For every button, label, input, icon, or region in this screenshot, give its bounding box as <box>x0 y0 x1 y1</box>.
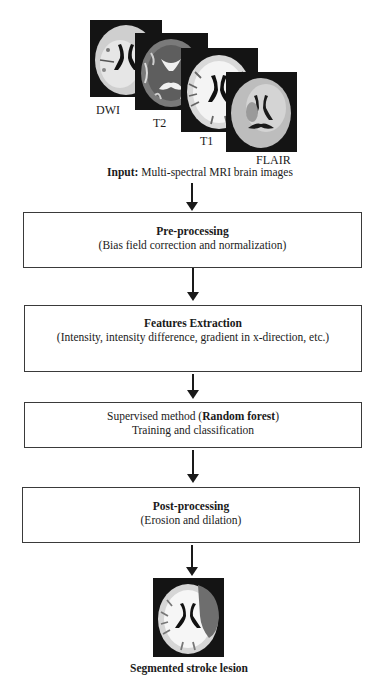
step-title: Post-processing <box>23 499 359 513</box>
input-caption: Input: Multi-spectral MRI brain images <box>8 166 384 179</box>
segmented-output-image <box>153 578 224 657</box>
step-random-forest: Supervised method (Random forest) Traini… <box>24 402 362 448</box>
step-title: Pre-processing <box>24 224 361 238</box>
step-features-extraction: Features Extraction (Intensity, intensit… <box>24 305 362 372</box>
arrow-down-icon <box>186 183 198 211</box>
arrow-down-icon <box>187 374 199 400</box>
output-caption: Segmented stroke lesion <box>0 662 381 675</box>
step-preprocessing: Pre-processing (Bias field correction an… <box>23 212 362 268</box>
input-caption-text: Multi-spectral MRI brain images <box>138 166 293 178</box>
method-name: Random forest <box>202 410 275 422</box>
step-subtitle: (Intensity, intensity difference, gradie… <box>25 330 361 344</box>
step-postprocessing: Post-processing (Erosion and dilation) <box>22 487 360 543</box>
step-subtitle: (Erosion and dilation) <box>23 513 359 527</box>
step-method-line: Supervised method (Random forest) <box>25 409 361 423</box>
input-caption-bold: Input: <box>107 166 138 178</box>
step-title: Features Extraction <box>25 316 361 330</box>
image-label-dwi: DWI <box>96 104 120 116</box>
segmented-brain-lesion-icon <box>153 578 224 657</box>
arrow-down-icon <box>186 545 198 577</box>
image-label-t2: T2 <box>153 117 166 129</box>
mri-image-flair <box>226 72 297 152</box>
image-label-flair: FLAIR <box>256 154 291 166</box>
image-label-t1: T1 <box>200 135 213 147</box>
arrow-down-icon <box>187 268 199 302</box>
brain-mri-flair-icon <box>226 72 297 152</box>
step-subtitle: Training and classification <box>25 423 361 437</box>
step-subtitle: (Bias field correction and normalization… <box>24 238 361 252</box>
arrow-down-icon <box>187 450 199 484</box>
